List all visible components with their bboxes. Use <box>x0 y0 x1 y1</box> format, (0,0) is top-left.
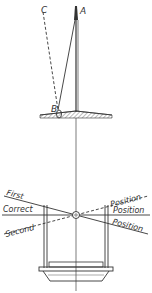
point-b-label: B <box>51 104 57 114</box>
line-a-b <box>58 20 75 110</box>
point-c-label: C <box>41 5 48 15</box>
label-second: Second <box>4 223 36 239</box>
pendulum-level-diagram: A C B First Correct Second Position Posi… <box>0 0 152 293</box>
line-c-b <box>43 12 58 110</box>
label-position-second: Position <box>112 217 145 233</box>
rod-tip <box>74 6 78 20</box>
label-first: First <box>6 188 26 201</box>
label-position-correct: Position <box>113 206 144 215</box>
label-correct: Correct <box>3 205 33 214</box>
point-a-label: A <box>79 6 86 16</box>
upper-assembly <box>40 6 112 118</box>
pivot-circle <box>73 212 80 219</box>
